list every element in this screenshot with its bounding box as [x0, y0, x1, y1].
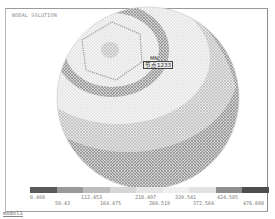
legend-tick: 50.43 [55, 200, 70, 206]
legend-swatch [136, 187, 163, 193]
legend-swatch [242, 187, 269, 193]
legend-tick: 268.519 [149, 200, 170, 206]
legend-swatch [110, 187, 137, 193]
legend-swatch [216, 187, 243, 193]
legend-swatch [163, 187, 190, 193]
legend-tick: 424.585 [217, 194, 238, 200]
legend-tick: 476.608 [243, 200, 264, 206]
legend-tick: 0.408 [30, 194, 45, 200]
legend-tick: 372.564 [193, 200, 214, 206]
legend-tick: 112.453 [81, 194, 102, 200]
contour-legend-bar [30, 187, 269, 193]
legend-swatch [30, 187, 57, 193]
node-label: 节点1233 [143, 61, 173, 69]
legend-tick: 164.475 [100, 200, 121, 206]
model-label: model1 [3, 210, 23, 217]
sphere-mesh [18, 0, 260, 189]
legend-swatch [189, 187, 216, 193]
legend-swatch [83, 187, 110, 193]
legend-swatch [57, 187, 84, 193]
